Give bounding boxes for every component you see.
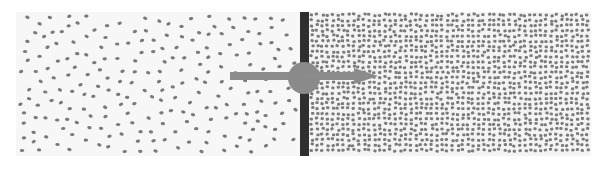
- diffusion-diagram: [0, 0, 603, 169]
- diagram: [0, 0, 603, 169]
